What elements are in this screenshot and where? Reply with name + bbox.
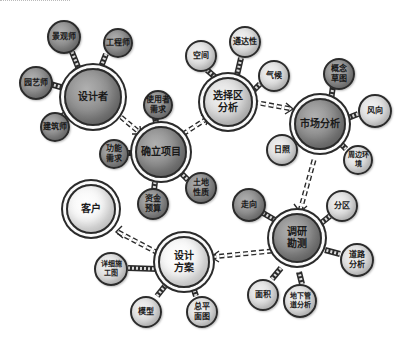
hub-designer: 设计者 <box>64 68 122 126</box>
node-surrounding-environment: 周边环境 <box>343 145 373 175</box>
hub-research-survey: 调研 勘测 <box>272 213 322 263</box>
node-wind-direction: 风向 <box>358 94 392 128</box>
node-underground-pipe-analysis: 地下管 道分析 <box>283 284 317 318</box>
hub-define-project: 确立项目 <box>135 126 187 178</box>
node-function-needs: 功能 需求 <box>99 139 129 169</box>
node-accessibility: 通达性 <box>229 26 261 58</box>
node-zoning: 分区 <box>326 190 358 222</box>
node-construction-drawings: 详细施 工图 <box>94 252 128 286</box>
node-budget: 资金 预算 <box>137 188 169 220</box>
node-horticulturist: 园艺师 <box>19 66 53 100</box>
hub-site-analysis: 选择区 分析 <box>203 77 253 127</box>
node-space: 空间 <box>185 40 217 72</box>
node-master-plan: 总平 面图 <box>186 296 218 328</box>
hub-market-analysis: 市场分析 <box>294 98 346 150</box>
node-architect: 建筑师 <box>40 112 70 142</box>
node-orientation: 走向 <box>232 188 266 222</box>
node-concept-sketch: 概念 草图 <box>323 58 355 90</box>
node-road-analysis: 道路 分析 <box>340 243 374 277</box>
node-land-nature: 土地 性质 <box>185 172 217 204</box>
node-engineer: 工程师 <box>103 28 133 58</box>
node-user-needs: 使用者 需求 <box>143 90 173 120</box>
node-climate: 气候 <box>258 60 290 92</box>
node-sunlight: 日照 <box>266 134 298 166</box>
node-landscape-architect: 景观师 <box>47 20 81 54</box>
hub-design-scheme: 设计 方案 <box>158 236 210 288</box>
hub-client: 客户 <box>66 184 116 234</box>
node-model: 模型 <box>130 296 162 328</box>
node-area: 面积 <box>247 279 279 311</box>
